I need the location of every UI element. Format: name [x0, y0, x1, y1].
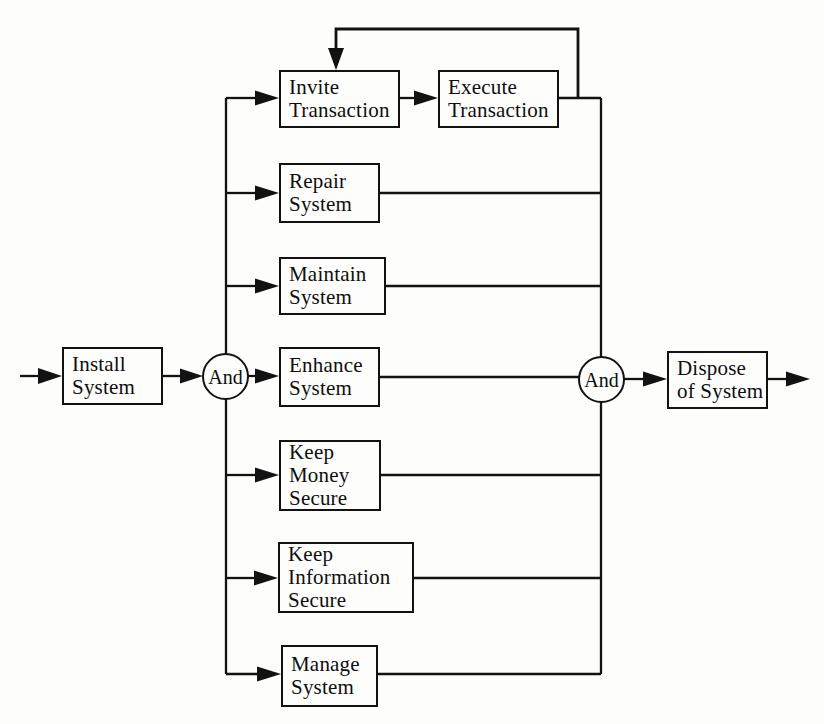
- arrowhead-start-install: [38, 368, 62, 384]
- node-keep-money-secure-label: Keep Money Secure: [281, 441, 350, 510]
- node-invite-transaction-label: Invite Transaction: [281, 76, 390, 122]
- node-manage-system: Manage System: [281, 645, 378, 707]
- arrowhead-branch-keepinfo: [254, 571, 278, 586]
- node-maintain-system-label: Maintain System: [281, 263, 366, 309]
- node-install-system: Install System: [62, 347, 163, 405]
- arrowhead-branch-enhance: [255, 369, 279, 384]
- node-dispose-of-system: Dispose of System: [667, 351, 768, 409]
- arrowhead-branch-invite: [255, 91, 279, 106]
- arrowhead-install-andsplit: [180, 369, 203, 384]
- arrowhead-dispose-end: [786, 372, 810, 387]
- arrowhead-branch-maintain: [255, 279, 279, 294]
- node-keep-information-secure: Keep Information Secure: [278, 542, 414, 613]
- arrowhead-branch-manage: [257, 667, 281, 682]
- and-gate-split: And: [202, 353, 249, 400]
- and-gate-join: And: [578, 356, 625, 403]
- node-maintain-system: Maintain System: [279, 257, 386, 315]
- node-repair-system-label: Repair System: [281, 170, 352, 216]
- node-install-system-label: Install System: [64, 353, 135, 399]
- arrowhead-loop-into-invite: [328, 48, 344, 70]
- and-gate-split-label: And: [208, 367, 242, 387]
- node-enhance-system: Enhance System: [279, 347, 380, 407]
- node-execute-transaction-label: Execute Transaction: [440, 76, 549, 122]
- diagram-canvas: Install System And Invite Transaction Ex…: [0, 0, 824, 724]
- node-dispose-of-system-label: Dispose of System: [669, 357, 763, 403]
- arrowhead-invite-execute: [414, 91, 438, 106]
- arrowhead-branch-keepmoney: [255, 468, 279, 483]
- and-gate-join-label: And: [584, 370, 618, 390]
- node-keep-money-secure: Keep Money Secure: [279, 440, 381, 511]
- arrowhead-andjoin-dispose: [643, 372, 667, 387]
- node-keep-information-secure-label: Keep Information Secure: [280, 543, 391, 612]
- node-execute-transaction: Execute Transaction: [438, 70, 559, 128]
- node-invite-transaction: Invite Transaction: [279, 70, 400, 128]
- node-enhance-system-label: Enhance System: [281, 354, 363, 400]
- arrowhead-branch-repair: [255, 186, 279, 201]
- node-manage-system-label: Manage System: [283, 653, 360, 699]
- node-repair-system: Repair System: [279, 163, 380, 223]
